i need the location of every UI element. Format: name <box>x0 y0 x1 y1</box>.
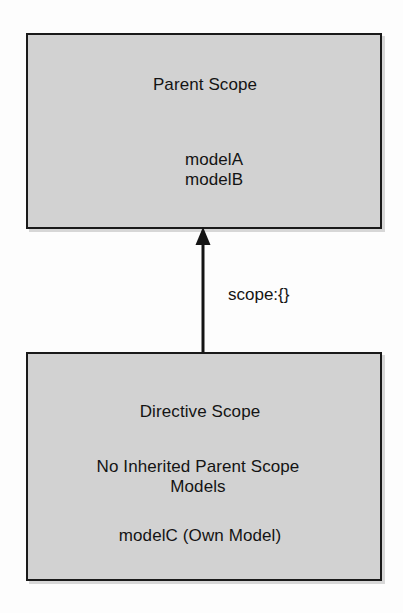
parent-scope-box: Parent Scope modelA modelB <box>26 33 382 229</box>
directive-scope-note-line-1: No Inherited Parent Scope <box>16 457 380 477</box>
scope-connector-label: scope:{} <box>228 285 289 305</box>
directive-scope-own-model: modelC (Own Model) <box>20 526 380 546</box>
directive-scope-note: No Inherited Parent Scope Models <box>16 457 380 497</box>
parent-scope-model-list: modelA modelB <box>48 150 380 190</box>
directive-scope-box: Directive Scope No Inherited Parent Scop… <box>26 352 382 581</box>
directive-scope-title: Directive Scope <box>20 402 380 422</box>
parent-scope-model-a: modelA <box>48 150 380 170</box>
directive-scope-note-line-2: Models <box>16 477 380 497</box>
diagram-canvas: Parent Scope modelA modelB scope:{} Dire… <box>0 0 403 613</box>
parent-scope-title: Parent Scope <box>30 75 380 95</box>
scope-inheritance-arrow-icon <box>186 224 220 356</box>
parent-scope-model-b: modelB <box>48 170 380 190</box>
